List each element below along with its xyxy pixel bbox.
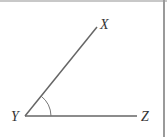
label-z: Z (141, 109, 149, 124)
angle-arc (41, 96, 51, 116)
angle-diagram: X Y Z (0, 0, 167, 137)
label-y: Y (11, 109, 21, 124)
label-x: X (99, 17, 109, 32)
diagram-frame: X Y Z (0, 0, 167, 137)
ray-yx (25, 27, 97, 116)
